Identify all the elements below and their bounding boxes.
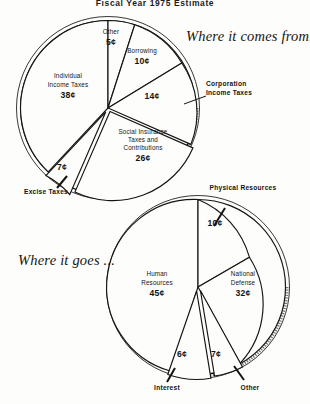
budget-dollar-figure: Fiscal Year 1975 Estimate Where it comes… — [0, 0, 310, 404]
label-national-defense: National Defense 32¢ — [215, 270, 271, 297]
label-physical-resources: Physical Resources — [206, 184, 280, 193]
label-other-outlays-value: 7¢ — [206, 350, 226, 359]
pie-where-it-goes-graphic — [0, 0, 310, 404]
label-human-resources: Human Resources 45¢ — [126, 270, 188, 297]
label-physical-resources-value: 10¢ — [204, 219, 226, 228]
caption-where-it-goes: Where it goes ... — [18, 252, 115, 269]
label-other-outlays: Other — [232, 384, 268, 393]
label-interest: Interest — [146, 384, 188, 393]
label-interest-value: 6¢ — [172, 350, 192, 359]
